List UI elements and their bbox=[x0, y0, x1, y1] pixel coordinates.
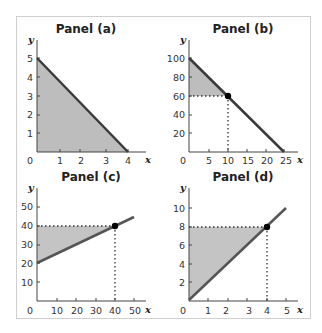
panel-b-xlabel: x bbox=[296, 154, 304, 165]
svg-text:5: 5 bbox=[27, 53, 33, 64]
svg-text:4: 4 bbox=[125, 155, 131, 166]
svg-text:50: 50 bbox=[21, 201, 33, 212]
svg-text:3: 3 bbox=[103, 155, 109, 166]
svg-text:1: 1 bbox=[205, 305, 211, 316]
svg-text:6: 6 bbox=[179, 240, 185, 251]
svg-text:40: 40 bbox=[109, 305, 121, 316]
panel-a-ylabel: y bbox=[27, 34, 35, 45]
svg-text:4: 4 bbox=[27, 72, 33, 83]
panel-a-xlabel: x bbox=[144, 154, 152, 165]
svg-text:40: 40 bbox=[21, 220, 33, 231]
svg-text:30: 30 bbox=[21, 239, 33, 250]
svg-text:2: 2 bbox=[179, 277, 185, 288]
panel-c-point bbox=[112, 223, 118, 229]
svg-text:2: 2 bbox=[27, 109, 33, 120]
svg-text:5: 5 bbox=[284, 305, 290, 316]
panel-d-xlabel: x bbox=[296, 304, 304, 315]
svg-text:5: 5 bbox=[206, 155, 212, 166]
svg-text:3: 3 bbox=[246, 305, 252, 316]
panel-c: Panel (c) y x 0 10 20 30 40 50 10 20 30 … bbox=[21, 170, 152, 316]
svg-text:20: 20 bbox=[261, 155, 273, 166]
svg-text:50: 50 bbox=[129, 305, 141, 316]
panel-b-yticks: 20 40 60 80 100 bbox=[167, 53, 192, 139]
svg-text:80: 80 bbox=[173, 72, 185, 83]
svg-text:30: 30 bbox=[90, 305, 102, 316]
svg-text:25: 25 bbox=[280, 155, 292, 166]
panel-b-origin: 0 bbox=[180, 155, 186, 166]
svg-text:8: 8 bbox=[179, 221, 185, 232]
panel-d: Panel (d) y x 0 1 2 3 4 5 2 4 6 8 10 bbox=[173, 170, 304, 316]
panel-b-ylabel: y bbox=[179, 34, 187, 45]
svg-text:20: 20 bbox=[173, 128, 185, 139]
panel-a: Panel (a) y x 0 1 2 3 4 1 2 3 4 5 bbox=[27, 22, 152, 166]
svg-text:4: 4 bbox=[179, 259, 185, 270]
svg-text:1: 1 bbox=[57, 155, 63, 166]
svg-text:2: 2 bbox=[223, 305, 229, 316]
panel-c-xlabel: x bbox=[144, 304, 152, 315]
panel-c-title: Panel (c) bbox=[61, 170, 121, 184]
panel-d-origin: 0 bbox=[180, 305, 186, 316]
svg-text:20: 20 bbox=[21, 258, 33, 269]
panel-d-title: Panel (d) bbox=[212, 170, 273, 184]
svg-text:20: 20 bbox=[71, 305, 83, 316]
svg-text:100: 100 bbox=[167, 53, 185, 64]
panel-b-title: Panel (b) bbox=[212, 22, 273, 36]
svg-text:10: 10 bbox=[51, 305, 63, 316]
panel-b: Panel (b) y x 0 5 10 15 20 25 20 40 60 8… bbox=[167, 22, 304, 166]
panel-d-ylabel: y bbox=[179, 182, 187, 193]
svg-text:1: 1 bbox=[27, 128, 33, 139]
panel-a-title: Panel (a) bbox=[56, 22, 117, 36]
panel-a-origin: 0 bbox=[27, 155, 33, 166]
svg-text:10: 10 bbox=[222, 155, 234, 166]
panel-d-point bbox=[264, 224, 270, 230]
svg-text:10: 10 bbox=[173, 203, 185, 214]
svg-text:40: 40 bbox=[173, 109, 185, 120]
svg-text:2: 2 bbox=[78, 155, 84, 166]
svg-text:3: 3 bbox=[27, 91, 33, 102]
panel-b-line bbox=[189, 58, 284, 152]
panel-c-ylabel: y bbox=[27, 182, 35, 193]
panel-c-origin: 0 bbox=[27, 305, 33, 316]
chart-canvas: Panel (a) y x 0 1 2 3 4 1 2 3 4 5 Panel … bbox=[0, 0, 322, 333]
svg-text:4: 4 bbox=[264, 305, 270, 316]
panel-b-point bbox=[225, 93, 231, 99]
svg-text:10: 10 bbox=[21, 277, 33, 288]
svg-text:15: 15 bbox=[242, 155, 254, 166]
svg-text:60: 60 bbox=[173, 91, 185, 102]
